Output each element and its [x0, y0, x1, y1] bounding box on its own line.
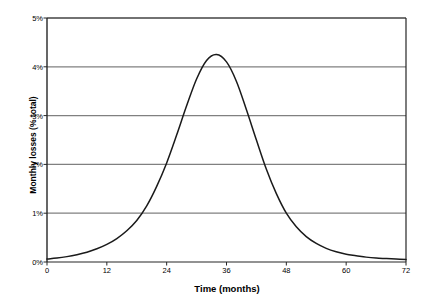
x-tick-label: 0: [32, 266, 62, 275]
x-tick-label: 72: [391, 266, 421, 275]
x-tick-label: 36: [212, 266, 242, 275]
x-axis-title: Time (months): [47, 283, 407, 294]
chart-container: 0%1%2%3%4%5% 0122436486072 Time (months)…: [0, 0, 425, 306]
gridlines-group: [47, 18, 406, 213]
chart-plot-area: [0, 0, 425, 306]
x-tick-label: 48: [271, 266, 301, 275]
y-tick-label: 5%: [14, 14, 43, 23]
x-tick-label: 24: [152, 266, 182, 275]
y-axis-title: Monthly losses (% total): [28, 65, 38, 225]
x-tick-label: 60: [331, 266, 361, 275]
x-tick-label: 12: [92, 266, 122, 275]
data-series-line: [47, 55, 406, 260]
